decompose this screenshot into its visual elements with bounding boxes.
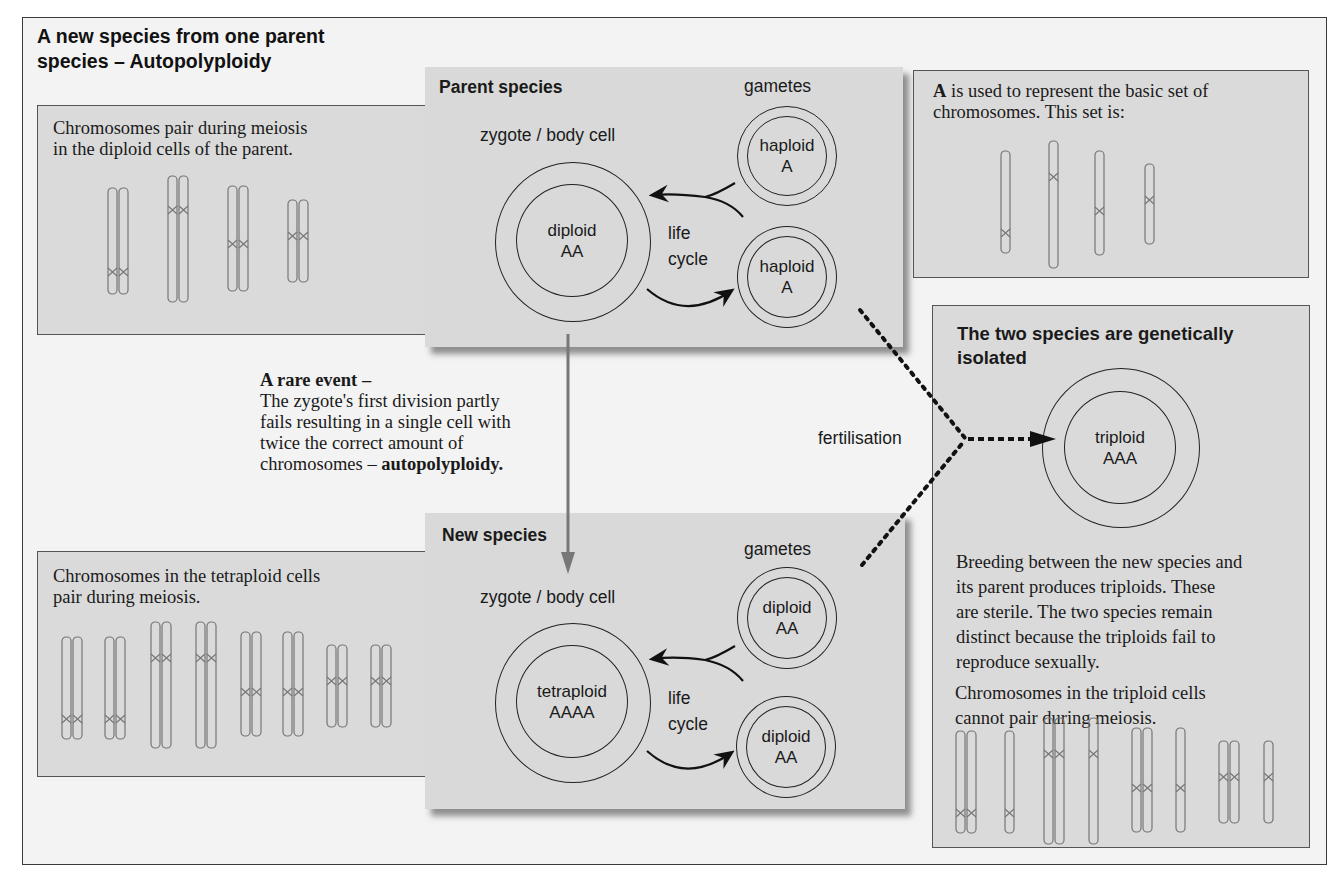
fertilisation-arrows-icon [0, 0, 1342, 886]
